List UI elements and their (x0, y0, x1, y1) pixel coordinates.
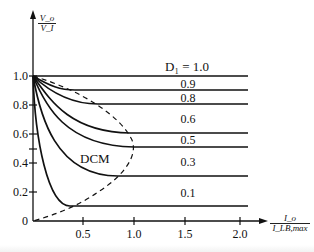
curve-label: 0.6 (168, 113, 208, 125)
curve-d-0.1 (33, 76, 248, 206)
x-tick-label: 1.0 (119, 228, 149, 240)
curve-label: 0.1 (168, 187, 208, 199)
curve-label: 0.9 (168, 78, 208, 90)
duty-curves (33, 76, 248, 206)
curve-label: 0.5 (168, 134, 208, 146)
y-axis-arrow-icon (30, 10, 36, 19)
y-tick-label: 0 (2, 215, 28, 227)
d1-label: D₁ = 1.0 (165, 60, 209, 74)
y-axis-label: V_o V_I (38, 14, 56, 33)
x-tick-label: 2.0 (225, 228, 255, 240)
x-axis-arrow-icon (259, 218, 268, 224)
chart-plot (0, 0, 314, 252)
curve-d-0.5 (33, 76, 248, 147)
curve-d-0.3 (33, 76, 248, 176)
curve-d-0.9 (33, 76, 248, 90)
y-axis-label-denominator: V_I (38, 24, 56, 33)
x-tick-label: 1.5 (170, 228, 200, 240)
dcm-boundary-dashed (33, 76, 133, 221)
y-tick-label: 1.0 (2, 70, 28, 82)
curve-label: 0.3 (168, 156, 208, 168)
y-tick-label: 0.2 (2, 186, 28, 198)
y-tick-label: 0.4 (2, 157, 28, 169)
dcm-region-label: DCM (80, 152, 110, 166)
curve-label: 0.8 (168, 92, 208, 104)
x-tick-label: 0.5 (68, 228, 98, 240)
x-axis-label-denominator: I_LB,max (270, 224, 310, 233)
x-axis-label: I_o I_LB,max (270, 214, 310, 233)
caption-cut-off (0, 245, 314, 252)
y-tick-label: 0.6 (2, 128, 28, 140)
y-tick-label: 0.8 (2, 99, 28, 111)
